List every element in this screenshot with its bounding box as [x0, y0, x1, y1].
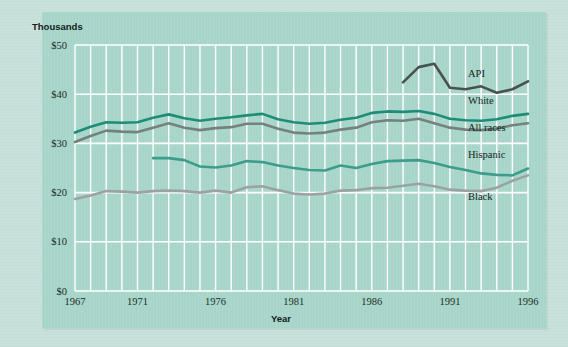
series-label-white: White [468, 95, 494, 106]
x-axis-tick-labels: 1967197119761981198619911996 [65, 296, 539, 307]
x-tick-label: 1976 [205, 296, 226, 307]
line-chart: $0$10$20$30$40$50 1967197119761981198619… [0, 0, 568, 347]
y-tick-label: $30 [51, 138, 67, 149]
x-tick-label: 1991 [439, 296, 460, 307]
y-axis-tick-labels: $0$10$20$30$40$50 [51, 40, 67, 297]
y-axis-unit-label: Thousands [32, 21, 83, 32]
y-tick-label: $10 [51, 236, 67, 247]
x-tick-label: 1981 [283, 296, 304, 307]
x-tick-label: 1996 [518, 296, 539, 307]
series-lines [75, 64, 528, 199]
y-tick-label: $20 [51, 187, 67, 198]
y-tick-label: $0 [57, 286, 68, 297]
x-tick-label: 1971 [127, 296, 148, 307]
series-label-all-races: All races [468, 122, 506, 133]
y-tick-label: $50 [51, 40, 67, 51]
y-tick-label: $40 [51, 89, 67, 100]
series-label-hispanic: Hispanic [468, 149, 506, 160]
series-line-black [75, 175, 528, 199]
x-tick-label: 1967 [65, 296, 86, 307]
series-label-black: Black [468, 191, 493, 202]
x-axis-title: Year [271, 313, 291, 324]
series-label-api: API [468, 68, 485, 79]
x-tick-label: 1986 [361, 296, 382, 307]
figure-background: $0$10$20$30$40$50 1967197119761981198619… [0, 0, 568, 347]
